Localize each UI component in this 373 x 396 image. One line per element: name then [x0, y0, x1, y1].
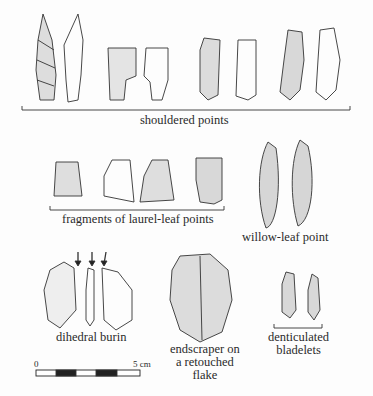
scale-end-label: 5 cm	[133, 358, 151, 371]
laurel-leaf-drawings	[54, 158, 222, 204]
bladelets-label: denticulated bladelets	[268, 331, 329, 357]
bladelets-bracket	[274, 324, 322, 328]
dihedral-burin-label: dihedral burin	[56, 331, 126, 344]
denticulated-bladelet-drawings	[282, 272, 320, 320]
willow-leaf-drawings	[259, 140, 312, 228]
scale-bar	[36, 370, 140, 376]
lithic-artifacts-figure: shouldered points fragments of laurel-le…	[0, 0, 373, 396]
willow-leaf-label: willow-leaf point	[242, 231, 328, 244]
shouldered-bracket	[22, 106, 350, 110]
laurel-bracket	[50, 206, 224, 210]
laurel-leaf-label: fragments of laurel-leaf points	[62, 213, 214, 226]
scale-start-label: 0	[34, 358, 39, 371]
shouldered-point-drawings	[36, 14, 340, 102]
endscraper-label: endscraper on a retouched flake	[170, 343, 240, 382]
dihedral-burin-drawings	[44, 252, 132, 330]
shouldered-points-label: shouldered points	[140, 114, 229, 127]
